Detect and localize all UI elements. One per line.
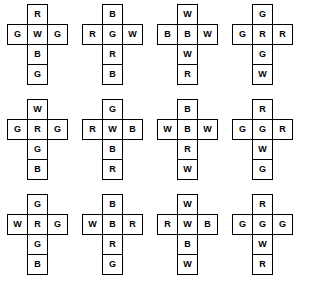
net-9-cell-bottom: B	[27, 254, 48, 275]
cube-net-4: G G R R G W	[225, 0, 309, 95]
net-row-2: W G R G G B G R W B B R B W B W R W R G …	[0, 95, 319, 190]
net-5-cell-right: G	[47, 119, 68, 140]
net-2-cell-left: R	[82, 24, 103, 45]
net-4-cell-middle: R	[252, 24, 273, 45]
cube-net-6: G R W B B R	[75, 95, 150, 190]
net-9-cell-left: W	[7, 214, 28, 235]
net-11-cell-top: W	[177, 194, 198, 215]
net-2-cell-right: W	[122, 24, 143, 45]
net-12-cell-bottom: R	[252, 254, 273, 275]
cube-net-12: R G G G W R	[225, 190, 309, 285]
net-8-cell-bottom: G	[252, 159, 273, 180]
cube-net-9: G W R G G B	[0, 190, 75, 285]
cube-net-11: W R W B B W	[150, 190, 225, 285]
net-7-cell-middle: B	[177, 119, 198, 140]
net-1-cell-lower: B	[27, 44, 48, 65]
net-1-cell-top: R	[27, 4, 48, 25]
net-10-cell-left: W	[82, 214, 103, 235]
net-6-cell-top: G	[102, 99, 123, 120]
net-9-cell-lower: G	[27, 234, 48, 255]
net-1-cell-bottom: G	[27, 64, 48, 85]
net-6-cell-lower: B	[102, 139, 123, 160]
net-3-cell-left: B	[157, 24, 178, 45]
net-10-cell-right: R	[122, 214, 143, 235]
net-1-cell-right: G	[47, 24, 68, 45]
net-4-cell-bottom: W	[252, 64, 273, 85]
net-7-cell-right: W	[197, 119, 218, 140]
net-3-cell-right: W	[197, 24, 218, 45]
net-2-cell-lower: R	[102, 44, 123, 65]
net-11-cell-left: R	[157, 214, 178, 235]
cube-net-10: B W B R R G	[75, 190, 150, 285]
net-2-cell-bottom: B	[102, 64, 123, 85]
cube-net-1: R G W G B G	[0, 0, 75, 95]
net-row-1: R G W G B G B R G W R B W B B W W R G G …	[0, 0, 319, 95]
net-7-cell-left: W	[157, 119, 178, 140]
net-7-cell-top: B	[177, 99, 198, 120]
net-8-cell-right: R	[272, 119, 293, 140]
net-2-cell-middle: G	[102, 24, 123, 45]
net-4-cell-lower: G	[252, 44, 273, 65]
net-3-cell-top: W	[177, 4, 198, 25]
net-8-cell-top: R	[252, 99, 273, 120]
net-4-cell-right: R	[272, 24, 293, 45]
net-12-cell-right: G	[272, 214, 293, 235]
net-4-cell-top: G	[252, 4, 273, 25]
net-8-cell-lower: W	[252, 139, 273, 160]
net-7-cell-lower: R	[177, 139, 198, 160]
net-5-cell-left: G	[7, 119, 28, 140]
net-11-cell-lower: B	[177, 234, 198, 255]
net-12-cell-middle: G	[252, 214, 273, 235]
net-1-cell-left: G	[7, 24, 28, 45]
net-9-cell-top: G	[27, 194, 48, 215]
cube-net-5: W G R G G B	[0, 95, 75, 190]
net-6-cell-bottom: R	[102, 159, 123, 180]
cube-net-3: W B B W W R	[150, 0, 225, 95]
net-3-cell-middle: B	[177, 24, 198, 45]
net-3-cell-bottom: R	[177, 64, 198, 85]
net-6-cell-middle: W	[102, 119, 123, 140]
net-3-cell-lower: W	[177, 44, 198, 65]
cube-net-7: B W B W R W	[150, 95, 225, 190]
net-6-cell-left: R	[82, 119, 103, 140]
net-11-cell-bottom: W	[177, 254, 198, 275]
net-9-cell-right: G	[47, 214, 68, 235]
net-1-cell-middle: W	[27, 24, 48, 45]
net-10-cell-bottom: G	[102, 254, 123, 275]
cube-nets-figure: R G W G B G B R G W R B W B B W W R G G …	[0, 0, 319, 295]
net-2-cell-top: B	[102, 4, 123, 25]
net-11-cell-right: B	[197, 214, 218, 235]
net-10-cell-middle: B	[102, 214, 123, 235]
net-12-cell-top: R	[252, 194, 273, 215]
net-4-cell-left: G	[232, 24, 253, 45]
cube-net-8: R G G R W G	[225, 95, 309, 190]
net-5-cell-top: W	[27, 99, 48, 120]
net-12-cell-left: G	[232, 214, 253, 235]
net-10-cell-lower: R	[102, 234, 123, 255]
net-5-cell-bottom: B	[27, 159, 48, 180]
net-5-cell-lower: G	[27, 139, 48, 160]
net-10-cell-top: B	[102, 194, 123, 215]
net-11-cell-middle: W	[177, 214, 198, 235]
net-7-cell-bottom: W	[177, 159, 198, 180]
net-6-cell-right: B	[122, 119, 143, 140]
net-8-cell-middle: G	[252, 119, 273, 140]
net-5-cell-middle: R	[27, 119, 48, 140]
net-12-cell-lower: W	[252, 234, 273, 255]
cube-net-2: B R G W R B	[75, 0, 150, 95]
net-8-cell-left: G	[232, 119, 253, 140]
net-9-cell-middle: R	[27, 214, 48, 235]
net-row-3: G W R G G B B W B R R G W R W B B W R G …	[0, 190, 319, 285]
